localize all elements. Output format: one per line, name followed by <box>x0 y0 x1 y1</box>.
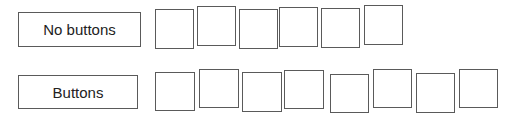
square-button-3[interactable] <box>242 72 282 112</box>
label-no-buttons: No buttons <box>18 12 141 47</box>
square-button-1[interactable] <box>155 72 195 111</box>
square-button-5[interactable] <box>330 74 369 113</box>
square-button-8[interactable] <box>459 69 498 108</box>
plain-square-5 <box>321 8 360 48</box>
square-button-4[interactable] <box>284 70 324 109</box>
plain-square-2 <box>197 6 236 46</box>
plain-square-6 <box>364 5 403 45</box>
square-button-2[interactable] <box>199 69 239 108</box>
plain-square-3 <box>239 9 278 49</box>
square-button-6[interactable] <box>373 69 412 108</box>
label-buttons: Buttons <box>18 75 138 109</box>
plain-square-1 <box>155 9 194 49</box>
square-button-7[interactable] <box>416 73 455 113</box>
plain-square-4 <box>279 7 318 47</box>
